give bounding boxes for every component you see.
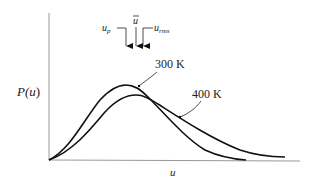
up-label: up: [102, 22, 111, 35]
leader-400k: [180, 101, 201, 117]
x-axis: [49, 160, 300, 161]
marker-ubar: u: [133, 15, 139, 46]
leader-300k-dot: [138, 85, 140, 87]
marker-urms: urms: [143, 22, 170, 46]
urms-label: urms: [154, 22, 170, 35]
label-300k: 300 K: [155, 57, 185, 71]
ubar-label: u: [133, 15, 138, 26]
speed-distribution-diagram: P(u) u up u urms 300 K 400 K: [0, 0, 317, 188]
marker-up: up: [102, 22, 126, 46]
y-axis-label: P(u): [16, 84, 40, 99]
label-400k: 400 K: [192, 87, 222, 101]
y-label-p: P(: [16, 84, 30, 99]
y-label-close: ): [36, 84, 40, 99]
curve-400k: [49, 95, 285, 160]
leader-400k-dot: [179, 116, 181, 118]
leader-300k: [139, 72, 157, 86]
x-axis-label: u: [170, 166, 176, 178]
